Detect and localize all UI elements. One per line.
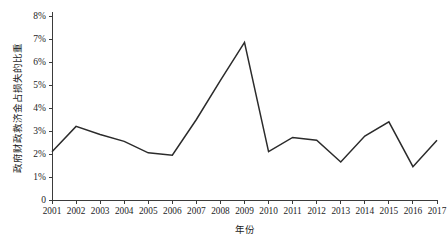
x-axis-title: 年份 (235, 224, 255, 235)
x-tick-label: 2006 (163, 206, 182, 216)
x-axis-title-text: 年份 (235, 224, 255, 235)
x-tick-label: 2001 (43, 206, 62, 216)
y-axis-tick-labels: 01%2%3%4%5%6%7%8% (33, 11, 46, 205)
y-tick-label: 4% (33, 103, 46, 113)
y-tick-label: 6% (33, 57, 46, 67)
y-tick-label: 8% (33, 11, 46, 21)
x-tick-label: 2009 (235, 206, 254, 216)
y-tick-label: 5% (33, 80, 46, 90)
x-tick-label: 2010 (259, 206, 278, 216)
line-chart-figure: 01%2%3%4%5%6%7%8% 2001200220032004200520… (0, 0, 447, 245)
x-tick-label: 2011 (284, 206, 303, 216)
x-tick-label: 2017 (428, 206, 447, 216)
y-axis-title-text: 政府财政救济金占损失的比重 (12, 43, 23, 173)
y-tick-label: 3% (33, 126, 46, 136)
x-tick-label: 2003 (91, 206, 110, 216)
x-tick-label: 2005 (139, 206, 158, 216)
x-tick-label: 2013 (331, 206, 350, 216)
y-tick-label: 7% (33, 34, 46, 44)
x-tick-label: 2015 (380, 206, 399, 216)
x-tick-label: 2016 (404, 206, 423, 216)
y-tick-label: 1% (33, 172, 46, 182)
x-axis-tick-labels: 2001200220032004200520062007200820092010… (43, 206, 447, 216)
x-tick-label: 2002 (67, 206, 86, 216)
chart-canvas: 01%2%3%4%5%6%7%8% 2001200220032004200520… (0, 0, 447, 245)
x-tick-label: 2008 (211, 206, 230, 216)
x-tick-label: 2012 (307, 206, 326, 216)
y-axis-title: 政府财政救济金占损失的比重 (12, 43, 23, 173)
x-tick-label: 2014 (356, 206, 375, 216)
x-tick-label: 2004 (115, 206, 134, 216)
y-tick-label: 2% (33, 149, 46, 159)
x-tick-label: 2007 (187, 206, 206, 216)
y-tick-label: 0 (41, 195, 46, 205)
